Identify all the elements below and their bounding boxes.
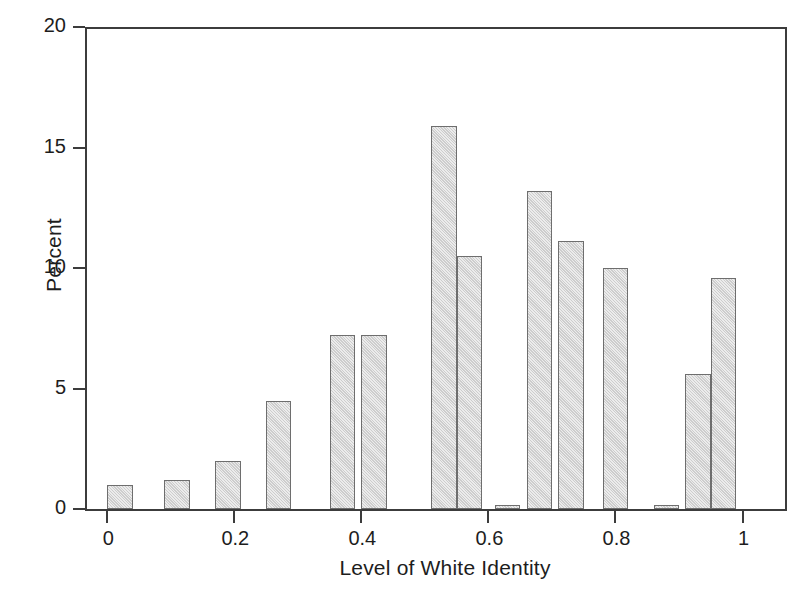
histogram-bar — [603, 268, 628, 509]
histogram-bar — [711, 278, 736, 509]
histogram-bar — [361, 335, 386, 509]
histogram-bar — [457, 256, 482, 509]
histogram-bar — [266, 401, 291, 509]
histogram-bar — [495, 505, 520, 509]
histogram-bar — [215, 461, 240, 509]
histogram-bar — [107, 485, 132, 509]
bar-series — [0, 0, 806, 597]
histogram-bar — [164, 480, 189, 509]
histogram-bar — [654, 505, 679, 509]
x-axis-title: Level of White Identity — [110, 556, 780, 580]
histogram-bar — [685, 374, 710, 509]
histogram-bar — [527, 191, 552, 509]
histogram-figure: Percent 05101520 00.20.40.60.81 Level of… — [0, 0, 806, 597]
histogram-bar — [330, 335, 355, 509]
histogram-bar — [431, 126, 456, 509]
histogram-bar — [558, 241, 583, 509]
